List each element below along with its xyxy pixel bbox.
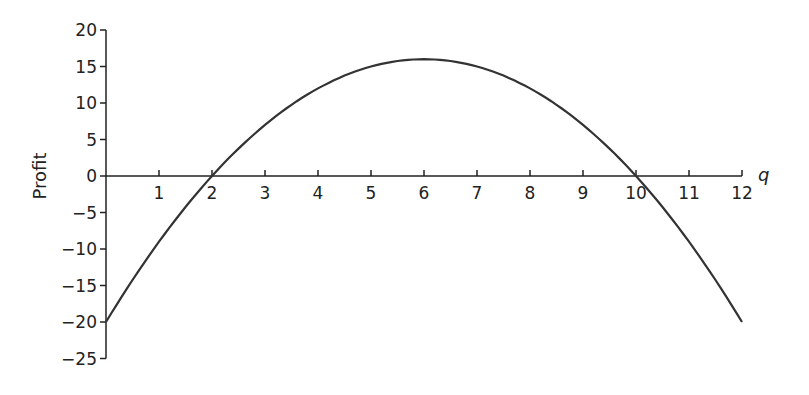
y-tick-label: 5 bbox=[86, 130, 97, 150]
y-tick-label: 20 bbox=[75, 20, 97, 40]
profit-chart: 20151050−5−10−15−20−25123456789101112qPr… bbox=[0, 0, 809, 395]
y-tick-label: −20 bbox=[61, 312, 97, 332]
y-tick-label: 10 bbox=[75, 93, 97, 113]
x-tick-label: 12 bbox=[731, 183, 753, 203]
x-tick-label: 11 bbox=[678, 183, 700, 203]
y-tick-label: 0 bbox=[86, 166, 97, 186]
x-tick-label: 9 bbox=[578, 183, 589, 203]
y-axis-title: Profit bbox=[29, 153, 50, 200]
x-tick-label: 7 bbox=[472, 183, 483, 203]
y-tick-label: −10 bbox=[61, 239, 97, 259]
x-axis-title: q bbox=[758, 164, 769, 185]
x-tick-label: 6 bbox=[419, 183, 430, 203]
x-tick-label: 4 bbox=[313, 183, 324, 203]
y-tick-label: −15 bbox=[61, 276, 97, 296]
x-tick-label: 1 bbox=[154, 183, 165, 203]
y-tick-label: −25 bbox=[61, 349, 97, 369]
x-tick-label: 5 bbox=[366, 183, 377, 203]
y-tick-label: −5 bbox=[72, 203, 97, 223]
x-tick-label: 3 bbox=[260, 183, 271, 203]
x-tick-label: 8 bbox=[525, 183, 536, 203]
y-tick-label: 15 bbox=[75, 57, 97, 77]
x-tick-label: 2 bbox=[207, 183, 218, 203]
